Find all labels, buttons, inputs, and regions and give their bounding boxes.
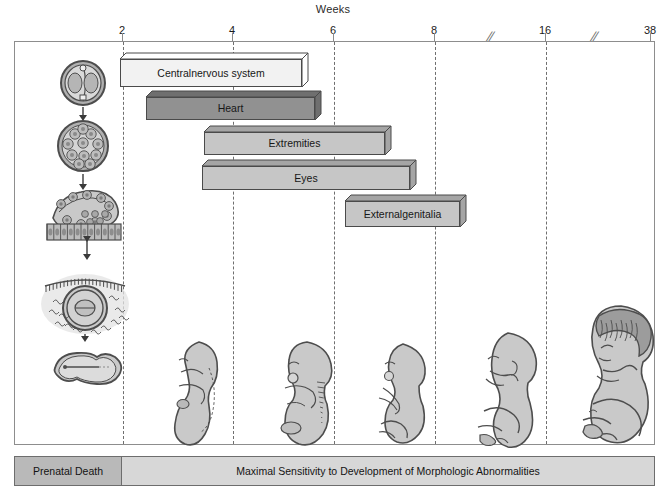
illus-implanted-embryo	[39, 264, 131, 342]
plot-frame: Centralnervous systemHeartExtremitiesEye…	[14, 41, 655, 445]
bottom-legend-band: Prenatal Death Maximal Sensitivity to De…	[14, 456, 655, 486]
prenatal-death-label: Prenatal Death	[33, 465, 103, 477]
bar-label: Eyes	[202, 166, 410, 190]
axis-tick-mark	[333, 33, 334, 41]
timeline-bar[interactable]: Heart	[146, 91, 321, 120]
axis-title-text: Weeks	[316, 3, 350, 15]
prenatal-death-cell: Prenatal Death	[15, 457, 122, 485]
maximal-sensitivity-label: Maximal Sensitivity to Development of Mo…	[236, 465, 539, 477]
axis-title: Weeks	[0, 3, 670, 15]
illus-morula	[53, 118, 113, 178]
timeline-bar[interactable]: Centralnervous system	[120, 53, 308, 87]
bar-label: Extremities	[204, 132, 385, 155]
figure-root: Weeks 24681638 //// Centralnervous syste…	[0, 0, 670, 499]
bar-side-face	[410, 160, 416, 190]
maximal-sensitivity-cell: Maximal Sensitivity to Development of Mo…	[122, 457, 654, 485]
illus-embryonic-disc	[45, 342, 125, 388]
illus-blastocyst	[41, 184, 127, 242]
timeline-bar[interactable]: Externalgenitalia	[345, 195, 466, 227]
illus-zygote	[53, 57, 113, 109]
illus-fetus-term	[575, 300, 667, 450]
illus-embryo-week4	[267, 334, 343, 446]
bar-label: Centralnervous system	[120, 59, 302, 87]
illus-arrow-3-4	[41, 242, 127, 264]
bar-label: Heart	[146, 97, 315, 120]
timeline-bar[interactable]: Extremities	[204, 126, 391, 155]
timeline-bar[interactable]: Eyes	[202, 160, 416, 190]
bar-label: Externalgenitalia	[345, 201, 460, 227]
axis-tick-mark	[232, 33, 233, 41]
axis-tick-mark	[545, 33, 546, 41]
illus-fetus-week8	[470, 327, 552, 449]
bar-side-face	[302, 53, 308, 87]
axis-tick-mark	[650, 33, 651, 41]
bar-side-face	[460, 195, 466, 227]
axis-tick-mark	[434, 33, 435, 41]
illus-embryo-week5	[367, 336, 439, 446]
illus-embryo-week3	[165, 330, 231, 446]
axis-tick-mark	[122, 33, 123, 41]
